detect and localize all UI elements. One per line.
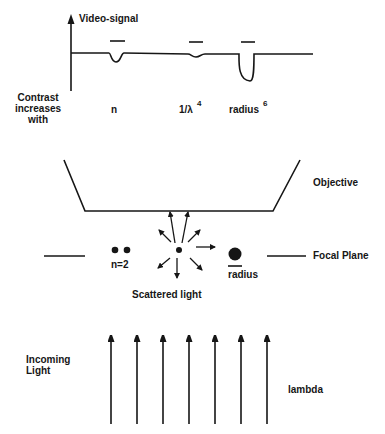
particle-pair-label: n=2 [111, 259, 129, 270]
scattering-arrows [158, 212, 215, 278]
row-label-line-1: Contrast [12, 92, 64, 103]
objective-lens [64, 160, 300, 211]
row-label-line-2: increases [12, 103, 64, 114]
scattered-light-label: Scattered light [132, 289, 201, 300]
contrast-row-label: Contrast increases with [12, 92, 64, 125]
particle-small-1 [112, 247, 119, 254]
incoming-label-line-2: Light [26, 365, 70, 376]
wavelength-label: lambda [288, 384, 323, 395]
factor-lambda: 1/λ4 [179, 104, 201, 116]
row-label-line-3: with [12, 114, 64, 125]
focal-plane-label: Focal Plane [313, 250, 369, 261]
particle-small-2 [124, 247, 131, 254]
objective-label: Objective [313, 177, 358, 188]
video-signal-graph [68, 14, 314, 91]
factor-n: n [111, 104, 117, 115]
factor-radius-exponent: 6 [263, 99, 267, 108]
y-axis-label: Video-signal [79, 13, 138, 24]
factor-lambda-exponent: 4 [197, 99, 201, 108]
factor-radius-base: radius [229, 104, 259, 115]
scatter-center-dot [176, 247, 182, 253]
particle-large [229, 248, 242, 261]
signal-trace [71, 53, 313, 81]
incoming-label-line-1: Incoming [26, 354, 70, 365]
large-particle-label: radius [228, 269, 258, 280]
incoming-light-arrows [111, 336, 267, 424]
factor-n-base: n [111, 104, 117, 115]
incoming-light-label: Incoming Light [26, 354, 70, 376]
factor-lambda-base: 1/λ [179, 104, 193, 115]
factor-radius: radius6 [229, 104, 267, 116]
y-axis-arrow-icon [68, 14, 75, 24]
